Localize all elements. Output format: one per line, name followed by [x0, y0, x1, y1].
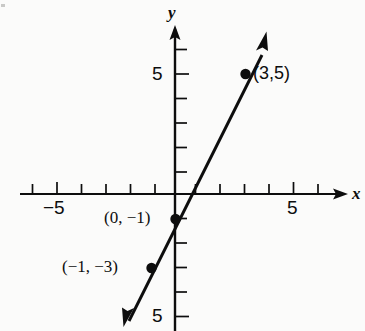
x-tick-label-5: 5 — [287, 198, 298, 217]
plotted-line — [129, 55, 262, 321]
data-point-label-neg1-neg3: (−1, −3) — [62, 258, 118, 275]
data-point-0-neg1 — [170, 214, 180, 224]
coordinate-plane — [0, 0, 365, 331]
y-axis-label: y — [168, 4, 176, 21]
data-point-neg1-neg3 — [146, 263, 156, 273]
line-arrowhead-up — [256, 32, 268, 52]
data-point-label-3-5: (3,5) — [253, 64, 290, 82]
data-point-label-0-neg1: (0, −1) — [104, 209, 150, 226]
y-tick-label-neg5: 5 — [152, 306, 163, 325]
x-axis-label: x — [352, 185, 361, 202]
data-point-3-5 — [240, 69, 250, 79]
graph-figure: y x −5 5 5 5 (3,5) (0, −1) (−1, −3) — [0, 0, 365, 331]
x-tick-label-neg5: −5 — [43, 198, 65, 217]
y-tick-label-5: 5 — [152, 64, 163, 83]
y-axis-ticks — [175, 50, 189, 317]
